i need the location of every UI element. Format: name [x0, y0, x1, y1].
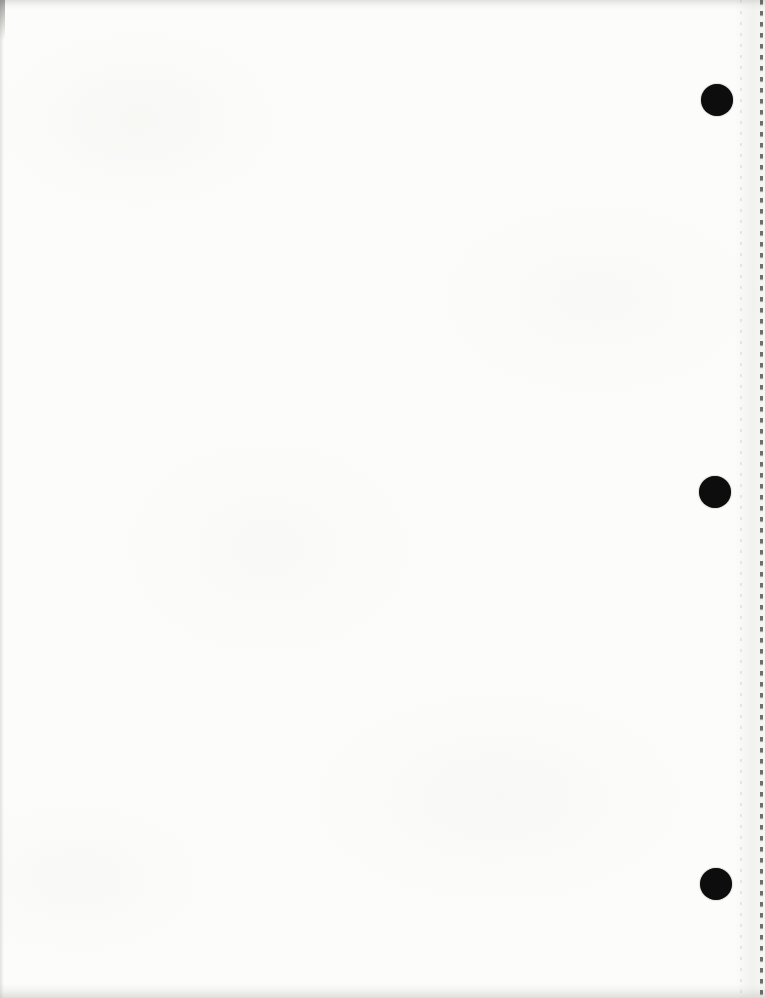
- paper-sheet: [0, 0, 765, 998]
- scan-edge-left: [0, 0, 4, 998]
- punch-hole-bottom: [700, 868, 732, 900]
- perforation-dashes: [760, 0, 763, 998]
- perforation-faint-dots: [740, 0, 742, 998]
- punch-hole-middle: [699, 476, 731, 508]
- scan-edge-bottom: [0, 984, 765, 998]
- scan-edge-top: [0, 0, 765, 10]
- punch-hole-top: [701, 84, 733, 116]
- scan-corner-smudge: [0, 0, 5, 40]
- scanned-page: [0, 0, 765, 998]
